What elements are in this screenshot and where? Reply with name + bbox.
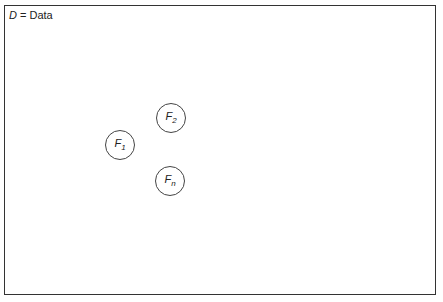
legend-symbol: D (9, 9, 17, 21)
diagram-frame (4, 5, 436, 295)
node-f1: F1 (105, 130, 135, 160)
legend-label: D = Data (9, 9, 53, 21)
node-f2: F2 (156, 103, 186, 133)
legend-meaning: Data (30, 9, 53, 21)
node-fn: Fn (155, 166, 185, 196)
legend-separator: = (17, 9, 30, 21)
